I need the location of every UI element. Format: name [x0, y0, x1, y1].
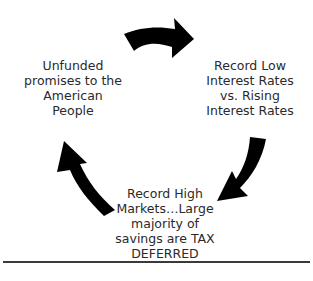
- node-line: Unfunded: [18, 58, 128, 73]
- curved-arrow-down-left-icon: [217, 137, 266, 201]
- node-line: promises to the: [18, 73, 128, 88]
- node-line: Record Low: [196, 58, 304, 73]
- node-line: savings are TAX: [112, 231, 218, 246]
- node-line: American: [18, 88, 128, 103]
- cycle-diagram: Unfunded promises to the American People…: [0, 0, 313, 281]
- node-line: Record High: [112, 186, 218, 201]
- node-interest-rates: Record Low Interest Rates vs. Rising Int…: [196, 58, 304, 118]
- node-line: Interest Rates: [196, 73, 304, 88]
- node-line: Interest Rates: [196, 103, 304, 118]
- node-unfunded-promises: Unfunded promises to the American People: [18, 58, 128, 118]
- curved-arrow-up-left-icon: [57, 141, 115, 216]
- node-line: Markets…Large: [112, 201, 218, 216]
- node-record-high-markets: Record High Markets…Large majority of sa…: [112, 186, 218, 261]
- node-line: vs. Rising: [196, 88, 304, 103]
- node-line: majority of: [112, 216, 218, 231]
- node-line: People: [18, 103, 128, 118]
- divider-line: [3, 261, 310, 263]
- curved-arrow-right-icon: [124, 18, 194, 58]
- node-line: DEFERRED: [112, 246, 218, 261]
